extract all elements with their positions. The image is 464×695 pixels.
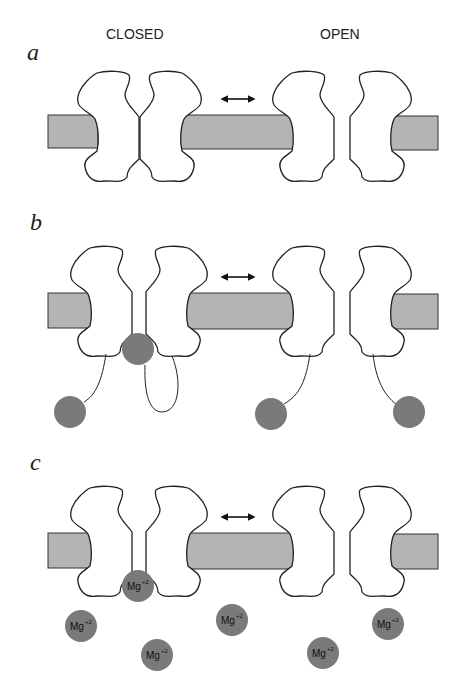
membrane-segment (388, 294, 438, 329)
open-header: OPEN (320, 26, 360, 42)
panel-label-c: c (30, 449, 41, 475)
inactivation-ball (393, 396, 425, 428)
svg-text:Mg: Mg (377, 619, 391, 630)
membrane-segment (388, 534, 438, 569)
svg-text:Mg: Mg (312, 648, 326, 659)
mg-ion: Mg +2 (65, 610, 97, 642)
chain-tether (84, 354, 106, 402)
panel-b: b (30, 209, 438, 430)
svg-text:Mg: Mg (146, 650, 160, 661)
svg-text:Mg: Mg (127, 581, 141, 592)
mg-ion: Mg +2 (141, 639, 173, 671)
panel-a: a (27, 39, 438, 181)
chain-tether (284, 354, 310, 404)
mg-ion: Mg +2 (372, 608, 404, 640)
svg-text:+2: +2 (85, 619, 93, 625)
svg-text:Mg: Mg (70, 621, 84, 632)
svg-text:+2: +2 (236, 613, 244, 619)
membrane-segment (48, 533, 92, 568)
mg-ion: Mg +2 (307, 637, 339, 669)
panel-label-a: a (27, 39, 39, 65)
mg-ion-blocking-pore: Mg +2 (122, 570, 154, 602)
svg-text:+2: +2 (392, 617, 400, 623)
inactivation-ball-plugging-pore (122, 333, 154, 365)
chain-tether (145, 356, 178, 412)
membrane-segment (185, 293, 295, 329)
inactivation-ball (54, 396, 86, 428)
svg-text:+2: +2 (327, 646, 335, 652)
membrane-segment (48, 115, 98, 148)
channel-gating-diagram: CLOSED OPEN a b (0, 0, 464, 695)
closed-header: CLOSED (106, 26, 164, 42)
svg-text:Mg: Mg (221, 615, 235, 626)
svg-text:+2: +2 (142, 579, 150, 585)
panel-label-b: b (30, 209, 42, 235)
chain-tether (373, 354, 396, 404)
membrane-segment (48, 293, 92, 328)
inactivation-ball (255, 398, 287, 430)
mg-ion: Mg +2 (216, 604, 248, 636)
membrane-segment (185, 533, 295, 569)
membrane-segment (180, 115, 295, 149)
membrane-segment (388, 116, 438, 150)
svg-text:+2: +2 (161, 648, 169, 654)
panel-c: c Mg +2 Mg +2 Mg +2 Mg +2 (30, 449, 438, 671)
